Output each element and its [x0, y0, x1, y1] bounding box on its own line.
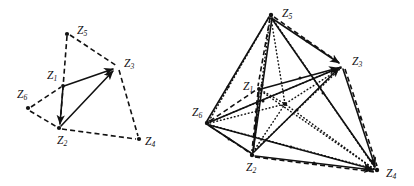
midpoint-dot-z6z2 — [228, 138, 231, 141]
label-z3-left: Z3 — [124, 57, 134, 71]
vertex-dot-z4 — [137, 137, 141, 141]
midpoint-dot-z1z3 — [299, 77, 302, 80]
edge-z6-z1-dashed — [31, 87, 61, 107]
midpoint-dot-z1z2 — [255, 120, 258, 123]
label-z1-right: Z1 — [243, 80, 253, 94]
midpoint-dot-z5z6 — [227, 86, 230, 89]
vertex-dot-z1 — [61, 84, 65, 88]
label-z5-left: Z5 — [77, 24, 87, 38]
label-z6-left: Z6 — [17, 88, 27, 102]
edge-z1-z2-arrow — [60, 87, 63, 124]
right-panel: Z1 Z2 Z3 Z4 Z5 Z6 — [192, 7, 396, 181]
midpoint-dot-z2z3 — [296, 109, 299, 112]
edge-z2-z3-arrow — [61, 71, 113, 126]
left-dashed-edges — [30, 35, 138, 139]
figure-root: Z1 Z2 Z3 Z4 Z5 Z6 — [0, 0, 414, 186]
midpoint-dot-z5z2 — [261, 84, 264, 87]
vertex-dot-z2-r — [250, 153, 254, 157]
vertex-dot-z5 — [65, 32, 69, 36]
edge-z6-z3-solid — [210, 67, 341, 122]
label-z2-left: Z2 — [57, 134, 67, 148]
vertex-dot-z6 — [26, 106, 30, 110]
edge-z3-z4-dashed — [119, 70, 138, 136]
vertex-dot-z4-r — [375, 168, 379, 172]
vertex-dot-z6-r — [205, 121, 209, 125]
midpoint-dot-z3z4 — [359, 117, 362, 120]
midpoint-dot-z2z4 — [313, 162, 316, 165]
edge-z1-z4-dotted — [261, 91, 374, 169]
edge-z1-z3-arrow — [64, 69, 113, 86]
vertex-dot-z1-r — [257, 87, 261, 91]
label-z3-right: Z3 — [352, 55, 362, 69]
label-z2-right: Z2 — [246, 161, 256, 175]
edge-z4-centroid-dotted — [285, 104, 374, 169]
label-z6-right: Z6 — [192, 106, 202, 120]
edge-z5-z3-dashed — [70, 35, 117, 66]
midpoint-dot-z6z3 — [262, 100, 265, 103]
midpoint-dot-z6z4 — [290, 146, 293, 149]
midpoint-dot-z5z4 — [322, 92, 325, 95]
edge-z2-z4-dashed — [62, 129, 136, 139]
vertex-dot-z5-r — [269, 13, 273, 17]
left-solid-edges — [60, 69, 113, 126]
edge-z6-z2-dashed — [30, 111, 57, 127]
label-z1-left: Z1 — [47, 69, 57, 83]
label-z4-right: Z4 — [386, 167, 396, 181]
midpoint-dot-z5z3 — [306, 40, 309, 43]
vertex-dot-centroid — [283, 102, 287, 106]
diagram-canvas: Z1 Z2 Z3 Z4 Z5 Z6 — [0, 0, 414, 186]
label-z4-left: Z4 — [145, 135, 155, 149]
vertex-dot-z2 — [57, 126, 61, 130]
label-z5-right: Z5 — [282, 7, 292, 21]
left-panel: Z1 Z2 Z3 Z4 Z5 Z6 — [17, 24, 155, 149]
